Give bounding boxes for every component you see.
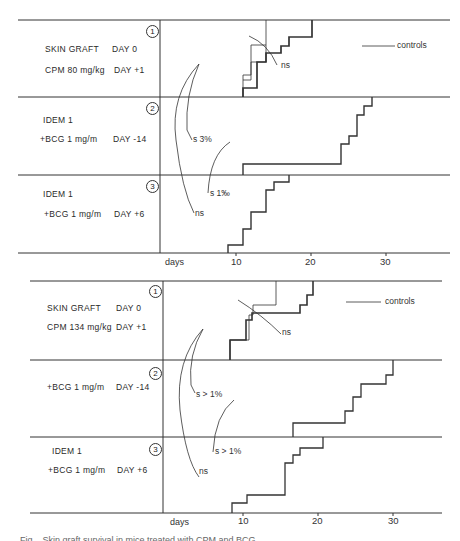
bottom-panel1-number: 1 (149, 285, 162, 298)
top-tick-30: 30 (380, 256, 391, 267)
bottom-ann-ns: ns (199, 466, 208, 476)
top-x-axis-label: days (165, 257, 184, 267)
top-panel3-number: 3 (146, 180, 159, 193)
top-ann-s3: s 3% (193, 134, 212, 144)
bottom-panel2-number: 2 (149, 367, 162, 380)
figure-caption-clipped: Fig. . Skin graft survival in mice treat… (20, 531, 450, 541)
bottom-ann-ns-panel1: ns (282, 327, 291, 337)
top-ann-ns: ns (195, 208, 204, 218)
top-p3-curve (228, 175, 289, 253)
bottom-tick-30: 30 (388, 515, 399, 526)
top-p1-label-day0: DAY 0 (112, 44, 137, 54)
top-ann-s1-permille: s 1‰ (210, 188, 230, 198)
bottom-tick-10: 10 (238, 515, 249, 526)
bottom-tick-20: 20 (312, 515, 323, 526)
top-panel2-number: 2 (146, 102, 159, 115)
top-tick-10: 10 (231, 256, 242, 267)
bottom-p3-label-day: DAY +6 (117, 465, 148, 475)
bottom-p1-treated-curve (230, 281, 313, 360)
top-p1-label-day1: DAY +1 (114, 65, 145, 75)
top-p2-label-day: DAY -14 (113, 134, 146, 144)
top-p2-curve (243, 97, 372, 175)
bottom-x-axis-label: days (170, 517, 189, 527)
bottom-p1-label-skin-graft: SKIN GRAFT (47, 303, 101, 313)
top-p3-label-day: DAY +6 (114, 209, 145, 219)
top-legend-controls: controls (397, 40, 427, 50)
bottom-p2-label-bcg: +BCG 1 mg/m (47, 382, 104, 392)
bottom-p1-label-day1: DAY +1 (116, 322, 147, 332)
bottom-p2-curve (293, 360, 393, 437)
top-p3-label-idem: IDEM 1 (43, 189, 73, 199)
bottom-panel3-number: 3 (149, 443, 162, 456)
top-tick-20: 20 (305, 256, 316, 267)
bottom-ann-s1-a: s > 1% (196, 389, 222, 399)
top-panel1-number: 1 (146, 25, 159, 38)
bottom-p3-label-idem: IDEM 1 (52, 446, 82, 456)
bottom-p1-label-day0: DAY 0 (116, 303, 141, 313)
top-p1-controls-curve (243, 20, 266, 97)
bottom-p3-curve (232, 437, 323, 513)
bottom-p2-label-day: DAY -14 (116, 382, 149, 392)
top-p3-label-bcg: +BCG 1 mg/m (44, 209, 101, 219)
bottom-legend-controls: controls (385, 296, 415, 306)
top-p2-label-bcg: +BCG 1 mg/m (40, 134, 97, 144)
bottom-ann-s1-b: s > 1% (215, 446, 241, 456)
bottom-p1-label-cpm: CPM 134 mg/kg (47, 322, 112, 332)
chart-graphics (0, 0, 460, 541)
bottom-p1-controls-curve (230, 281, 276, 360)
top-p1-treated-curve (243, 20, 312, 97)
top-ann-ns-panel1: ns (281, 60, 290, 70)
top-p1-label-cpm: CPM 80 mg/kg (45, 65, 105, 75)
bottom-p3-label-bcg: +BCG 1 mg/m (48, 465, 105, 475)
top-p1-label-skin-graft: SKIN GRAFT (45, 44, 99, 54)
top-p2-label-idem: IDEM 1 (43, 115, 73, 125)
